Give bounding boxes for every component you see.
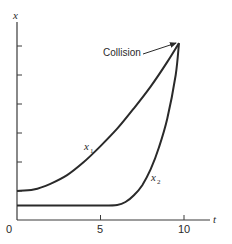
x-ticks — [101, 215, 185, 220]
collision-arrow — [143, 43, 176, 54]
chart-canvas — [0, 0, 232, 244]
x-tick-label-10: 10 — [178, 223, 190, 235]
series-label-x1-subscript: 1 — [90, 147, 94, 155]
y-axis-label: x — [13, 9, 18, 21]
series-label-x1-base: x — [84, 140, 89, 152]
curve-x1 — [17, 43, 179, 191]
series-label-x2-base: x — [151, 171, 156, 183]
series-label-x1: x1 — [84, 140, 93, 155]
x-tick-label-5: 5 — [97, 223, 103, 235]
series-label-x2: x2 — [151, 171, 160, 186]
collision-annotation: Collision — [103, 47, 141, 58]
series-label-x2-subscript: 2 — [157, 178, 161, 186]
y-ticks — [17, 46, 22, 191]
x-axis-label: t — [213, 213, 216, 225]
x-tick-label-0: 0 — [6, 223, 12, 235]
